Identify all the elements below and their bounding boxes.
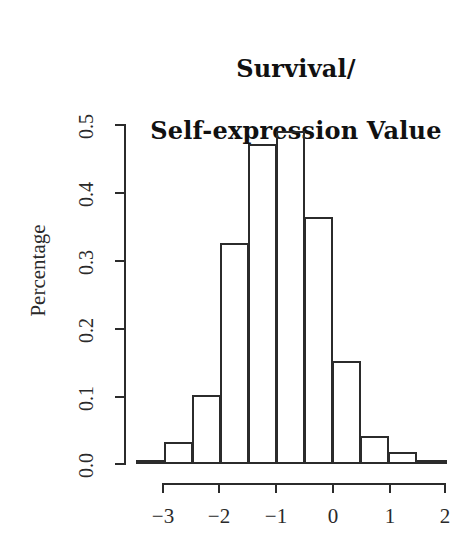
x-tick-mark-2 <box>444 483 446 493</box>
x-tick-label-neg3: −3 <box>143 504 183 529</box>
histogram-bar-3 <box>192 395 221 463</box>
x-axis-line <box>162 483 446 485</box>
x-tick-label-1: 1 <box>370 504 410 529</box>
histogram-bar-4 <box>220 243 249 463</box>
x-tick-label-neg2: −2 <box>199 504 239 529</box>
x-tick-label-neg1: −1 <box>256 504 296 529</box>
x-tick-label-2: 2 <box>425 504 465 529</box>
x-tick-mark-neg3 <box>162 483 164 493</box>
histogram-bar-8 <box>332 361 361 463</box>
histogram-chart: Survival/ Self-expression Value Percenta… <box>0 0 476 558</box>
histogram-bar-6 <box>276 131 305 463</box>
x-tick-mark-0 <box>332 483 334 493</box>
histogram-bar-2 <box>164 442 193 463</box>
plot-area: 0.5 0.4 0.3 0.2 0.1 0.0 −3 −2 <box>0 0 476 558</box>
x-tick-mark-1 <box>389 483 391 493</box>
histogram-bar-5 <box>248 144 277 463</box>
histogram-bar-7 <box>304 217 333 463</box>
histogram-bars <box>0 0 476 558</box>
x-tick-mark-neg2 <box>218 483 220 493</box>
x-tick-label-0: 0 <box>313 504 353 529</box>
histogram-baseline <box>136 462 447 464</box>
histogram-bar-9 <box>360 436 389 463</box>
x-tick-mark-neg1 <box>275 483 277 493</box>
